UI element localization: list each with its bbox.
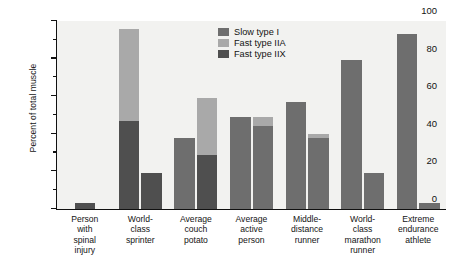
bar-segment — [253, 117, 274, 126]
chart-figure: Percent of total muscle 020406080100 Per… — [0, 0, 452, 274]
bar-segment — [119, 29, 140, 121]
bar-segment — [141, 173, 162, 209]
bar-segment — [197, 98, 218, 154]
bar — [397, 34, 418, 209]
chart-legend: Slow type IFast type IIAFast type IIX — [218, 26, 286, 60]
legend-label: Fast type IIA — [234, 38, 286, 48]
y-axis-tick-label: 80 — [426, 42, 437, 53]
bar-segment — [364, 173, 385, 209]
bar-segment — [397, 34, 418, 209]
legend-item: Fast type IIA — [218, 37, 286, 48]
bar — [174, 138, 195, 209]
bar-segment — [341, 60, 362, 209]
x-axis-line — [56, 209, 446, 210]
bar-segment — [230, 117, 251, 209]
bar — [341, 60, 362, 209]
bar-segment — [253, 126, 274, 209]
y-axis-tick-label: 20 — [426, 155, 437, 166]
legend-item: Fast type IIX — [218, 49, 286, 60]
bar — [308, 134, 329, 209]
bar — [364, 173, 385, 209]
y-axis-tick-label: 60 — [426, 80, 437, 91]
bar-segment — [197, 155, 218, 210]
bar-segment — [119, 121, 140, 209]
x-axis-category-label: Extreme endurance athlete — [384, 214, 452, 245]
bar — [197, 98, 218, 209]
bar — [286, 102, 307, 209]
bar — [230, 117, 251, 209]
y-axis-title: Percent of total muscle — [28, 8, 38, 208]
y-axis-tick-label: 0 — [432, 193, 437, 204]
legend-label: Slow type I — [234, 27, 279, 37]
bar-segment — [308, 138, 329, 209]
bar — [141, 173, 162, 209]
y-axis-tick-label: 40 — [426, 117, 437, 128]
y-axis-line — [56, 20, 57, 210]
legend-swatch-icon — [218, 50, 229, 58]
legend-label: Fast type IIX — [234, 49, 286, 59]
bar-segment — [174, 138, 195, 209]
bar — [253, 117, 274, 209]
y-axis-tick-label: 100 — [421, 5, 437, 16]
bar — [119, 29, 140, 209]
legend-swatch-icon — [218, 28, 229, 36]
legend-swatch-icon — [218, 39, 229, 47]
bar-segment — [286, 102, 307, 209]
legend-item: Slow type I — [218, 26, 286, 37]
